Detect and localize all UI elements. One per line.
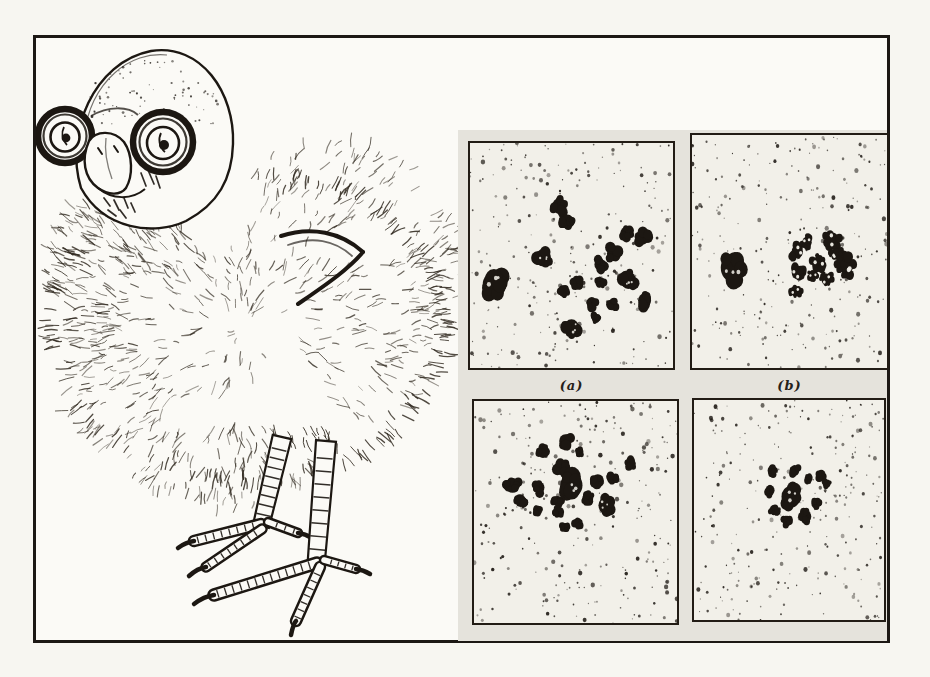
chick-with-goggles-illustration (36, 38, 466, 638)
peck-pattern-panel-a (468, 141, 675, 370)
peck-pattern-plot-c (474, 401, 677, 623)
figure-page: { "figure": { "labels": { "top_left_pane… (0, 0, 930, 677)
peck-pattern-panel-b (690, 133, 889, 370)
peck-pattern-panel-d (692, 398, 886, 622)
panel-label-b: (b) (690, 375, 889, 397)
peck-pattern-plot-a (470, 143, 673, 368)
peck-pattern-panel-c (472, 399, 679, 625)
chick-legs-and-feet (178, 435, 370, 635)
panel-label-a: (a) (468, 375, 675, 397)
figure-frame: (a) (b) (33, 35, 890, 643)
peck-pattern-plot-d (694, 400, 884, 620)
peck-pattern-plot-b (692, 135, 887, 368)
